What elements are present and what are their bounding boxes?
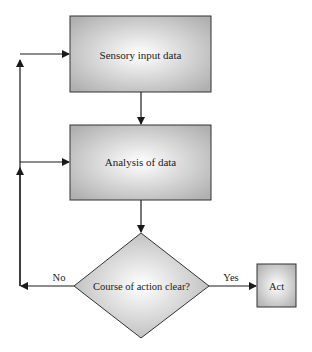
node-sensory-input: Sensory input data <box>70 16 211 92</box>
act-label: Act <box>269 281 284 292</box>
feedback-loop <box>20 54 69 286</box>
node-analysis: Analysis of data <box>70 125 211 200</box>
sensory-label: Sensory input data <box>100 49 182 61</box>
no-label: No <box>53 272 66 283</box>
yes-label: Yes <box>223 272 238 283</box>
node-decision: Course of action clear? <box>74 233 209 338</box>
analysis-label: Analysis of data <box>105 156 177 168</box>
decision-label: Course of action clear? <box>93 281 190 292</box>
node-act: Act <box>257 264 296 307</box>
flowchart-canvas: Sensory input data Analysis of data Cour… <box>0 0 312 352</box>
